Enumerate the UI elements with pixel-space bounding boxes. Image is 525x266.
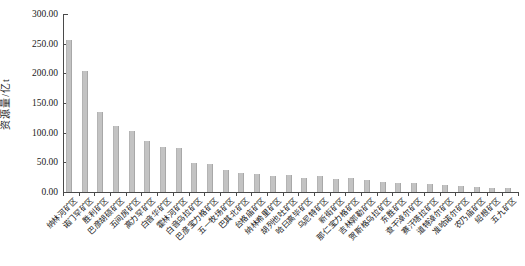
x-axis-tick	[283, 193, 284, 196]
y-tick-label: 300.00	[18, 9, 58, 19]
y-tick-label: 50.00	[18, 157, 58, 167]
y-axis-title: 资源量/亿t	[0, 64, 11, 144]
y-axis-tick	[64, 14, 68, 15]
bar	[286, 175, 292, 192]
x-axis-tick	[110, 193, 111, 196]
bar	[66, 40, 72, 192]
x-axis-tick	[440, 193, 441, 196]
bar	[191, 163, 197, 192]
bar	[474, 187, 480, 192]
x-axis-tick	[204, 193, 205, 196]
bar	[254, 174, 260, 192]
bar	[395, 183, 401, 192]
x-axis-tick	[157, 193, 158, 196]
bar	[301, 178, 307, 192]
x-axis-tick	[487, 193, 488, 196]
x-axis-tick	[298, 193, 299, 196]
y-axis-tick	[64, 192, 68, 193]
x-axis-tick	[314, 193, 315, 196]
bar	[223, 170, 229, 192]
bar	[160, 147, 166, 192]
bar	[144, 141, 150, 192]
x-axis-tick	[173, 193, 174, 196]
bar	[97, 112, 103, 192]
x-axis-tick	[94, 193, 95, 196]
y-tick-label: 0.00	[18, 187, 58, 197]
bar	[270, 176, 276, 192]
x-axis-tick	[267, 193, 268, 196]
bar	[364, 180, 370, 193]
x-axis-tick	[424, 193, 425, 196]
x-axis-tick	[345, 193, 346, 196]
x-axis-tick	[455, 193, 456, 196]
x-axis-tick	[126, 193, 127, 196]
x-axis-tick	[408, 193, 409, 196]
x-axis-tick	[189, 193, 190, 196]
bar	[458, 186, 464, 192]
bar	[348, 178, 354, 192]
x-axis-tick	[330, 193, 331, 196]
bar	[442, 185, 448, 192]
bar	[207, 164, 213, 192]
bar	[113, 126, 119, 192]
x-axis-tick	[251, 193, 252, 196]
y-tick-label: 200.00	[18, 68, 58, 78]
bar	[489, 188, 495, 192]
bar	[380, 182, 386, 192]
bar	[427, 184, 433, 192]
x-axis-tick	[141, 193, 142, 196]
x-axis-tick	[361, 193, 362, 196]
bar	[505, 188, 511, 192]
x-axis-tick	[502, 193, 503, 196]
x-axis-tick	[236, 193, 237, 196]
bar	[411, 183, 417, 192]
x-axis-tick	[79, 193, 80, 196]
x-axis-tick	[471, 193, 472, 196]
y-tick-label: 150.00	[18, 98, 58, 108]
resource-bar-chart: 资源量/亿t 0.0050.00100.00150.00200.00250.00…	[0, 0, 525, 266]
bar	[82, 71, 88, 192]
bar	[176, 148, 182, 193]
y-tick-label: 100.00	[18, 128, 58, 138]
x-axis-tick	[518, 193, 519, 196]
x-axis-line	[63, 192, 519, 193]
x-axis-tick	[392, 193, 393, 196]
x-axis-tick	[63, 193, 64, 196]
bar	[333, 179, 339, 192]
bar	[129, 131, 135, 192]
x-axis-tick	[377, 193, 378, 196]
bar	[317, 176, 323, 192]
y-tick-label: 250.00	[18, 39, 58, 49]
bar	[238, 173, 244, 192]
x-axis-tick	[220, 193, 221, 196]
